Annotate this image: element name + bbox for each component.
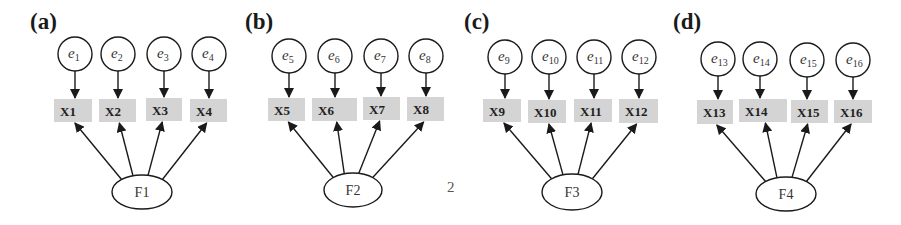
indicator-label: X8 [413, 102, 429, 117]
cfa-diagram-canvas: (a)e1X1e2X2e3X3e4X4F1(b)e5X5e6X6e7X7e8X8… [0, 0, 901, 225]
loading-arrow [549, 124, 563, 175]
loading-arrow [806, 124, 851, 182]
loading-arrow [578, 123, 591, 174]
loading-arrow [119, 123, 133, 176]
factor-label: F3 [565, 185, 580, 200]
panel-a: (a)e1X1e2X2e3X3e4X4F1 [30, 9, 227, 209]
loading-arrow [373, 122, 424, 178]
factor-label: F4 [779, 187, 794, 202]
indicator-label: X14 [745, 104, 768, 119]
panel-b: (b)e5X5e6X6e7X7e8X8F2 [245, 9, 444, 207]
indicator-label: X13 [703, 105, 726, 120]
indicator-label: X7 [369, 102, 385, 117]
panel-label: (b) [245, 9, 273, 34]
loading-arrow [765, 123, 777, 178]
indicator-label: X1 [60, 104, 76, 119]
indicator-label: X15 [797, 105, 820, 120]
loading-arrow [592, 124, 636, 179]
indicator-label: X10 [534, 105, 556, 120]
factor-label: F2 [346, 183, 361, 198]
indicator-label: X12 [625, 104, 647, 119]
indicator-label: X5 [274, 103, 290, 118]
loading-arrow [148, 122, 162, 175]
panel-label: (d) [673, 9, 701, 34]
indicator-label: X6 [318, 103, 334, 118]
indicator-label: X2 [105, 104, 121, 119]
indicator-label: X16 [840, 105, 863, 120]
panel-d: (d)e13X13e14X14e15X15e16X16F4 [673, 9, 872, 211]
loading-arrow [359, 121, 380, 173]
loading-arrow [792, 124, 808, 177]
indicator-label: X9 [489, 104, 505, 119]
panel-c: (c)e9X9e10X10e11X11e12X12F3 [464, 9, 658, 210]
indicator-label: X3 [152, 103, 168, 118]
indicator-label: X11 [580, 104, 602, 119]
factor-label: F1 [135, 185, 150, 200]
indicator-label: X4 [196, 104, 212, 119]
loading-arrow [337, 122, 345, 174]
loading-arrow [717, 125, 766, 182]
panel-label: (c) [464, 9, 490, 34]
stray-number-text: 2 [447, 179, 455, 195]
loading-arrow [75, 123, 122, 180]
panel-label: (a) [30, 9, 57, 34]
loading-arrow [504, 123, 552, 179]
loading-arrow [288, 122, 333, 178]
loading-arrow [162, 123, 206, 180]
